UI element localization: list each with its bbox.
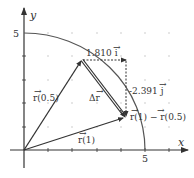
svg-text:→: → [159, 79, 167, 89]
svg-text:→: → [79, 128, 87, 138]
x-axis-label: x [178, 136, 185, 149]
svg-text:→: → [96, 86, 104, 96]
label-difference: r(1) − r(0.5) → → [130, 105, 186, 122]
svg-text:→: → [131, 105, 139, 115]
y-axis-label: y [29, 9, 37, 22]
svg-text:→: → [113, 42, 121, 52]
vector-difference-diagram: y x 5 5 r(0.5) → r(1) → Δr → 1.810 i → -… [0, 0, 194, 178]
label-r-one: r(1) → [78, 128, 95, 145]
svg-text:→: → [157, 105, 165, 115]
vector-arrow-symbol: → [34, 86, 42, 96]
vector-r-half [24, 61, 81, 150]
label-r-half: r(0.5) → [33, 86, 59, 103]
axis-ticks [22, 56, 169, 152]
vector-r-one [24, 118, 123, 150]
label-delta-r: Δr → [89, 86, 104, 103]
label-horizontal-component: 1.810 i → [86, 42, 121, 58]
x-tick-label-5: 5 [142, 153, 148, 164]
label-vertical-component: -2.391 j → [129, 79, 167, 96]
y-tick-label-5: 5 [13, 28, 19, 39]
